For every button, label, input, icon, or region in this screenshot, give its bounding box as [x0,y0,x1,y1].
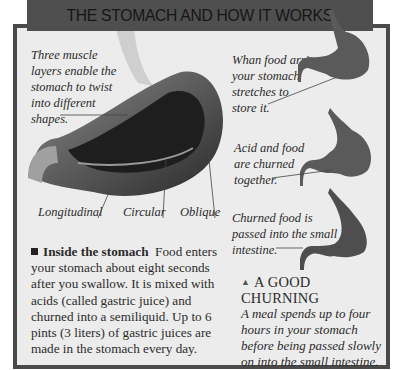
page-title: THE STOMACH AND HOW IT WORKS [67,6,333,26]
stomach-stage-1-icon [298,10,378,90]
